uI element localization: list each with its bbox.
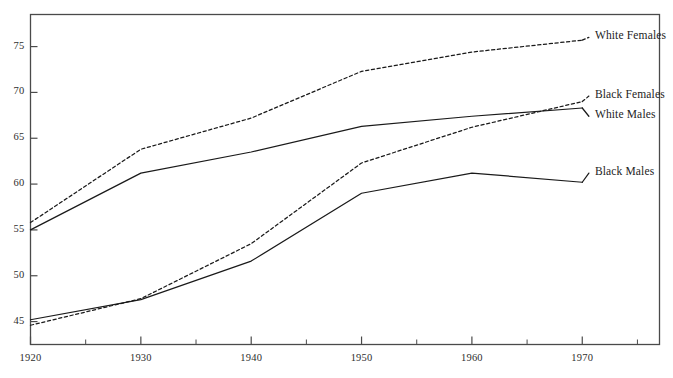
y-tick-label-75: 75 [0, 40, 25, 51]
plot-frame [31, 15, 660, 345]
series-label-white-females: White Females [595, 29, 666, 41]
series-label-white-males: White Males [595, 108, 656, 120]
x-tick-label-1970: 1970 [562, 352, 602, 363]
y-tick-label-50: 50 [0, 269, 25, 280]
y-tick-label-55: 55 [0, 223, 25, 234]
y-tick-label-45: 45 [0, 315, 25, 326]
x-tick-label-1920: 1920 [11, 352, 51, 363]
y-tick-label-65: 65 [0, 131, 25, 142]
chart-canvas [0, 0, 673, 378]
x-tick-label-1930: 1930 [121, 352, 161, 363]
series-label-black-males: Black Males [595, 165, 654, 177]
y-tick-label-60: 60 [0, 177, 25, 188]
y-tick-label-70: 70 [0, 85, 25, 96]
plot-frame-rect [31, 15, 660, 345]
series-label-black-females: Black Females [595, 88, 665, 100]
x-tick-label-1960: 1960 [452, 352, 492, 363]
life-expectancy-line-chart: 45505560657075 192019301940195019601970 … [0, 0, 673, 378]
x-tick-label-1940: 1940 [231, 352, 271, 363]
x-tick-label-1950: 1950 [342, 352, 382, 363]
